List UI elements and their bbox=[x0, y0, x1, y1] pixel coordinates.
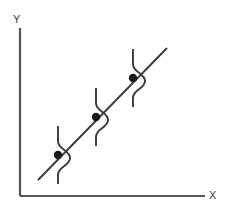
y-axis-label: Y bbox=[13, 13, 21, 25]
chart-figure: Y X bbox=[0, 0, 228, 214]
ogee-marker-3 bbox=[129, 49, 145, 107]
ogee-marker-1 bbox=[54, 126, 70, 184]
data-point-1 bbox=[54, 151, 62, 159]
data-point-2 bbox=[92, 113, 100, 121]
trend-line bbox=[38, 48, 167, 180]
ogee-marker-2 bbox=[92, 88, 108, 146]
x-axis-label: X bbox=[209, 189, 217, 201]
data-point-3 bbox=[129, 74, 137, 82]
plot-canvas: Y X bbox=[0, 0, 228, 214]
